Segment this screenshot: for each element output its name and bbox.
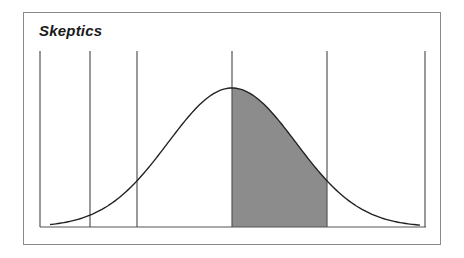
bell-curve-diagram [0,0,464,258]
shaded-region [232,88,327,227]
divider-lines [40,51,425,227]
